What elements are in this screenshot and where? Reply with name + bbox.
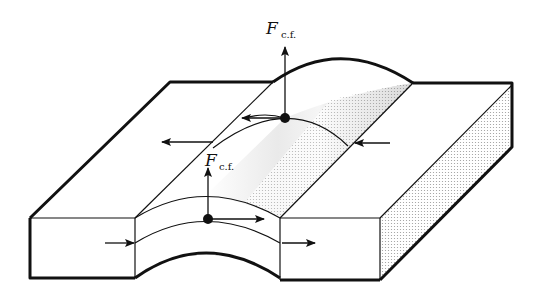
- slab-ridge-diagram: F c.f. F c.f.: [0, 0, 542, 297]
- svg-text:c.f.: c.f.: [219, 161, 234, 172]
- right-side-face: [380, 85, 512, 280]
- label-force-front: F c.f.: [204, 150, 234, 172]
- svg-text:F: F: [204, 150, 218, 170]
- svg-text:F: F: [265, 18, 279, 38]
- label-force-top: F c.f.: [265, 18, 296, 40]
- svg-text:c.f.: c.f.: [281, 29, 296, 40]
- ridge-shaded-surface: [205, 83, 413, 218]
